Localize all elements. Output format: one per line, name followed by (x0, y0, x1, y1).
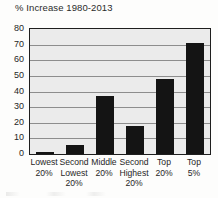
y-axis: 01020304050607080 (0, 28, 27, 155)
y-axis-tick-label: 80 (14, 23, 24, 33)
y-axis-tick-label: 40 (14, 86, 24, 96)
x-axis-tick-label: Top5% (179, 157, 209, 178)
x-axis-label-line: 20% (89, 168, 119, 179)
bar (96, 96, 114, 154)
bar-slot (66, 29, 84, 154)
bar-slot (36, 29, 54, 154)
x-axis-label-line: Top (179, 157, 209, 168)
bar (186, 43, 204, 154)
x-axis-label-line: Second (119, 157, 149, 168)
scan-artifact (6, 192, 126, 196)
x-axis-tick-label: SecondHighest20% (119, 157, 149, 189)
x-axis-label-line: Top (149, 157, 179, 168)
x-axis-label-line: 5% (179, 168, 209, 179)
chart-page: % Increase 1980-2013 01020304050607080 L… (0, 0, 218, 198)
x-axis-label-line: 20% (119, 178, 149, 189)
x-axis-label-line: 20% (29, 168, 59, 179)
bar (36, 152, 54, 154)
plot-area (29, 28, 211, 155)
y-axis-tick-label: 50 (14, 70, 24, 80)
x-axis-tick-label: Lowest20% (29, 157, 59, 178)
y-axis-tick-label: 10 (14, 132, 24, 142)
x-axis-tick-label: Top20% (149, 157, 179, 178)
y-axis-tick-label: 0 (19, 148, 24, 158)
bar-slot (156, 29, 174, 154)
x-axis-label-line: Highest (119, 168, 149, 179)
x-axis-tick-label: SecondLowest20% (59, 157, 89, 189)
y-axis-tick-label: 20 (14, 117, 24, 127)
x-axis-label-line: Second (59, 157, 89, 168)
bar (156, 79, 174, 154)
x-axis-label-line: 20% (149, 168, 179, 179)
x-axis-label-line: 20% (59, 178, 89, 189)
x-axis-label-line: Middle (89, 157, 119, 168)
y-axis-tick-label: 30 (14, 101, 24, 111)
bar-slot (186, 29, 204, 154)
y-axis-tick-label: 60 (14, 54, 24, 64)
x-axis-label-line: Lowest (59, 168, 89, 179)
bar-slot (96, 29, 114, 154)
x-axis: Lowest20%SecondLowest20%Middle20%SecondH… (29, 157, 211, 197)
bar-slot (126, 29, 144, 154)
chart-title: % Increase 1980-2013 (15, 2, 113, 13)
bar (66, 145, 84, 154)
bar (126, 126, 144, 154)
x-axis-tick-label: Middle20% (89, 157, 119, 178)
bar-series (30, 29, 210, 154)
x-axis-label-line: Lowest (29, 157, 59, 168)
y-axis-tick-label: 70 (14, 39, 24, 49)
